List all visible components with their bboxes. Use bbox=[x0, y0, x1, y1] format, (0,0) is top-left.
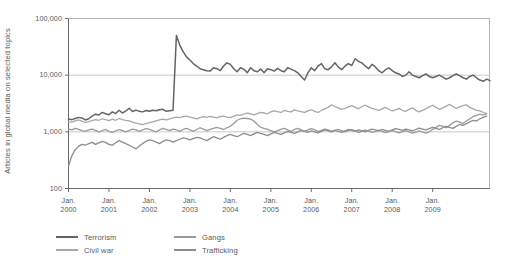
x-axis-ticks bbox=[69, 189, 433, 193]
axis-lines bbox=[68, 18, 490, 189]
legend-label: Gangs bbox=[202, 233, 225, 242]
legend-swatch-icon bbox=[56, 249, 78, 251]
x-tick-label-month: Jan. bbox=[291, 196, 331, 206]
x-tick-label: Jan.2001 bbox=[89, 196, 129, 215]
y-tick-label: 10,000 bbox=[8, 70, 62, 79]
x-tick-label-month: Jan. bbox=[251, 196, 291, 206]
y-tick-label: 1,000 bbox=[8, 127, 62, 136]
x-tick-label: Jan.2000 bbox=[49, 196, 89, 215]
legend-swatch-icon bbox=[174, 249, 196, 251]
x-tick-label-year: 2008 bbox=[372, 205, 412, 215]
series-line-civil-war bbox=[69, 104, 487, 124]
x-tick-label: Jan.2006 bbox=[291, 196, 331, 215]
x-tick-label-month: Jan. bbox=[49, 196, 89, 206]
x-tick-label-month: Jan. bbox=[170, 196, 210, 206]
x-tick-label-year: 2000 bbox=[49, 205, 89, 215]
series-line-terrorism bbox=[69, 36, 491, 120]
x-tick-label-year: 2004 bbox=[210, 205, 250, 215]
legend-label: Terrorism bbox=[84, 233, 117, 242]
legend-label: Trafficking bbox=[202, 246, 238, 255]
x-tick-label-month: Jan. bbox=[89, 196, 129, 206]
x-tick-label: Jan.2009 bbox=[413, 196, 453, 215]
x-tick-label-year: 2007 bbox=[332, 205, 372, 215]
data-series-group bbox=[69, 36, 491, 166]
series-line-gangs bbox=[69, 114, 487, 134]
x-tick-label-month: Jan. bbox=[413, 196, 453, 206]
x-tick-label: Jan.2007 bbox=[332, 196, 372, 215]
legend-item-terrorism[interactable]: Terrorism bbox=[56, 231, 117, 243]
x-tick-label-month: Jan. bbox=[372, 196, 412, 206]
x-tick-label-year: 2003 bbox=[170, 205, 210, 215]
legend-item-trafficking[interactable]: Trafficking bbox=[174, 244, 238, 256]
x-tick-label: Jan.2003 bbox=[170, 196, 210, 215]
x-tick-label: Jan.2004 bbox=[210, 196, 250, 215]
legend-swatch-icon bbox=[174, 236, 196, 238]
y-tick-label: 100,000 bbox=[8, 14, 62, 23]
legend-item-gangs[interactable]: Gangs bbox=[174, 231, 225, 243]
x-tick-label: Jan.2005 bbox=[251, 196, 291, 215]
y-axis-ticks bbox=[65, 19, 69, 189]
chart-legend: TerrorismCivil warGangsTrafficking bbox=[56, 231, 356, 261]
series-line-trafficking bbox=[69, 116, 487, 166]
x-tick-label-month: Jan. bbox=[332, 196, 372, 206]
y-tick-label: 100 bbox=[8, 184, 62, 193]
legend-item-civil-war[interactable]: Civil war bbox=[56, 244, 114, 256]
legend-swatch-icon bbox=[56, 236, 78, 238]
x-tick-label-year: 2009 bbox=[413, 205, 453, 215]
gridlines bbox=[69, 75, 491, 132]
chart-figure: Articles in global media on selected top… bbox=[0, 0, 505, 270]
x-tick-label-year: 2002 bbox=[129, 205, 169, 215]
x-tick-label: Jan.2008 bbox=[372, 196, 412, 215]
x-tick-label-year: 2005 bbox=[251, 205, 291, 215]
x-tick-label-year: 2001 bbox=[89, 205, 129, 215]
x-tick-label-month: Jan. bbox=[210, 196, 250, 206]
x-tick-label: Jan.2002 bbox=[129, 196, 169, 215]
x-tick-label-month: Jan. bbox=[129, 196, 169, 206]
plot-canvas bbox=[0, 0, 505, 270]
legend-label: Civil war bbox=[84, 246, 114, 255]
x-tick-label-year: 2006 bbox=[291, 205, 331, 215]
